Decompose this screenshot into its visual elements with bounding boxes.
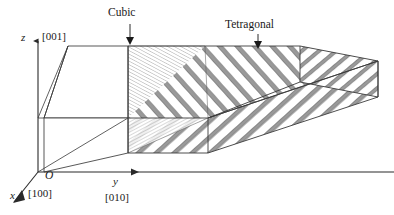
axis-index-z: [001]: [42, 31, 66, 42]
axis-label-y: y: [113, 176, 118, 187]
axis-index-x: [100]: [28, 188, 52, 199]
y-axis-arrowhead: [131, 169, 139, 176]
axis-index-y: [010]: [105, 192, 129, 203]
label-cubic: Cubic: [108, 7, 135, 19]
axis-label-z: z: [21, 32, 25, 43]
label-tetragonal: Tetragonal: [225, 19, 274, 31]
origin-label: O: [45, 170, 53, 182]
cubic-block: [44, 46, 128, 172]
crystal-structure-figure: Cubic Tetragonal z [001] O x [100] y [01…: [0, 0, 394, 215]
axis-label-x: x: [10, 190, 15, 201]
cubic-leader-arrowhead: [126, 37, 134, 45]
